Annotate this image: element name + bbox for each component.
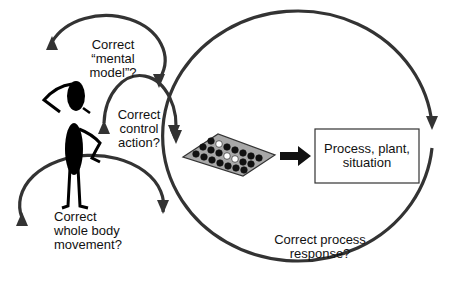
loop-arrowhead-icon	[16, 212, 28, 226]
thinking-person-icon	[44, 81, 100, 208]
label-line: action?	[107, 136, 171, 150]
label-line: Correct	[107, 108, 171, 122]
label-line: model”?	[73, 66, 153, 80]
label-line: Correct	[73, 38, 153, 52]
label-line: “mental	[73, 52, 153, 66]
control-panel-icon	[183, 134, 275, 176]
loop-arrowhead-icon	[426, 116, 438, 130]
loop-arrowhead-icon	[157, 200, 169, 214]
label-line: whole body	[54, 224, 134, 238]
process-box-label: Process, plant, situation	[315, 142, 419, 170]
label-line: movement?	[54, 238, 134, 252]
process-response-label: Correct process response?	[265, 233, 375, 261]
label-line: response?	[265, 247, 375, 261]
right-arrow-icon	[280, 146, 311, 166]
label-line: Process, plant,	[315, 142, 419, 156]
label-line: Correct process	[265, 233, 375, 247]
body-movement-label: Correct whole body movement?	[54, 210, 134, 252]
control-action-label: Correct control action?	[107, 108, 171, 150]
mental-model-label: Correct “mental model”?	[73, 38, 153, 80]
label-line: situation	[315, 156, 419, 170]
label-line: control	[107, 122, 171, 136]
label-line: Correct	[54, 210, 134, 224]
